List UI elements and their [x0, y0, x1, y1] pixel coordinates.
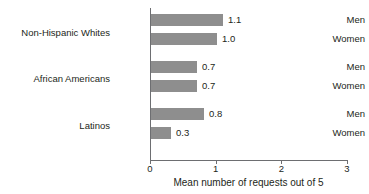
x-tick-label-1: 1 [213, 163, 218, 175]
bar-african-americans-women [151, 80, 197, 92]
bar-value-african-americans-men: 0.7 [202, 61, 215, 73]
bar-whites-men [151, 14, 223, 26]
series-label-latinos-men: Men [223, 108, 369, 120]
group-label-african-americans: African Americans [0, 73, 110, 85]
bar-whites-women [151, 33, 217, 45]
series-label-african-americans-men: Men [223, 61, 369, 73]
bar-value-african-americans-women: 0.7 [202, 80, 215, 92]
bar-african-americans-men [151, 61, 197, 73]
series-label-whites-women: Women [223, 33, 369, 45]
series-label-whites-men: Men [223, 14, 369, 26]
x-tick-label-2: 2 [279, 163, 284, 175]
series-label-latinos-women: Women [223, 127, 369, 139]
x-tick-label-0: 0 [147, 163, 152, 175]
bar-value-whites-men: 1.1 [228, 14, 241, 26]
x-axis-line [150, 160, 347, 161]
bar-latinos-men [151, 108, 204, 120]
bar-latinos-women [151, 127, 171, 139]
group-label-non-hispanic-whites: Non-Hispanic Whites [0, 27, 110, 39]
group-label-latinos: Latinos [0, 120, 110, 132]
bar-value-latinos-women: 0.3 [176, 127, 189, 139]
x-axis-title: Mean number of requests out of 5 [150, 176, 347, 189]
bar-value-latinos-men: 0.8 [209, 108, 222, 120]
bar-chart: Non-Hispanic Whites African Americans La… [0, 0, 369, 194]
series-label-african-americans-women: Women [223, 80, 369, 92]
x-tick-label-3: 3 [344, 163, 349, 175]
bar-value-whites-women: 1.0 [222, 33, 235, 45]
